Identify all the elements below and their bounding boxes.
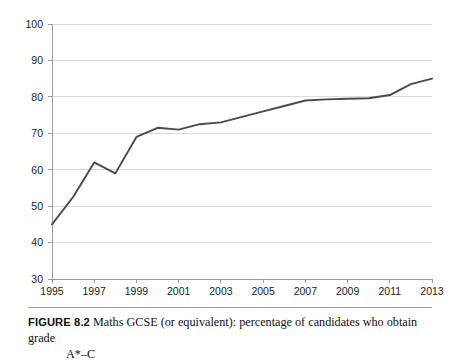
x-axis-labels-group: 1995199719992001200320052007200920112013 — [40, 285, 444, 297]
y-axis-label-40: 40 — [31, 236, 43, 248]
y-axis-label-50: 50 — [31, 200, 43, 212]
x-axis-label-2007: 2007 — [294, 285, 318, 297]
x-axis-label-2009: 2009 — [336, 285, 360, 297]
y-axis-labels-group: 30405060708090100 — [25, 18, 43, 285]
y-axis-label-80: 80 — [31, 91, 43, 103]
x-axis-label-1999: 1999 — [125, 285, 149, 297]
x-axis-label-2005: 2005 — [251, 285, 275, 297]
caption-divider — [28, 307, 432, 308]
y-axis-label-90: 90 — [31, 54, 43, 66]
data-series-line — [52, 79, 432, 225]
x-axis-label-2011: 2011 — [378, 285, 401, 297]
figure-caption: FIGURE 8.2 Maths GCSE (or equivalent): p… — [28, 314, 438, 362]
figure-caption-line-2: A*–C — [66, 346, 438, 362]
x-axis-ticks-group — [52, 279, 432, 283]
figure-label: FIGURE 8.2 — [28, 316, 90, 328]
line-chart: 30405060708090100 1995199719992001200320… — [0, 0, 460, 300]
x-axis-label-1995: 1995 — [40, 285, 64, 297]
x-axis-label-2013: 2013 — [420, 285, 444, 297]
y-axis-label-60: 60 — [31, 164, 43, 176]
y-axis-ticks-group — [48, 24, 52, 279]
chart-plot-area: 30405060708090100 1995199719992001200320… — [0, 0, 460, 300]
x-axis-label-2003: 2003 — [209, 285, 233, 297]
x-axis-label-1997: 1997 — [83, 285, 107, 297]
x-axis-label-2001: 2001 — [167, 285, 191, 297]
gridlines-group — [52, 24, 432, 279]
y-axis-label-30: 30 — [31, 273, 43, 285]
y-axis-label-100: 100 — [25, 18, 43, 30]
y-axis-label-70: 70 — [31, 127, 43, 139]
